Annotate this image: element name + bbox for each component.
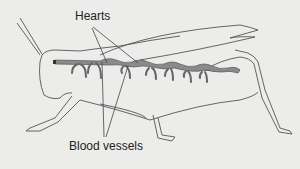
label-hearts: Hearts — [75, 9, 110, 23]
label-blood-vessels: Blood vessels — [69, 139, 143, 153]
grasshopper-outline — [17, 18, 292, 141]
grasshopper-diagram — [0, 0, 300, 169]
dorsal-vessel — [53, 59, 240, 82]
